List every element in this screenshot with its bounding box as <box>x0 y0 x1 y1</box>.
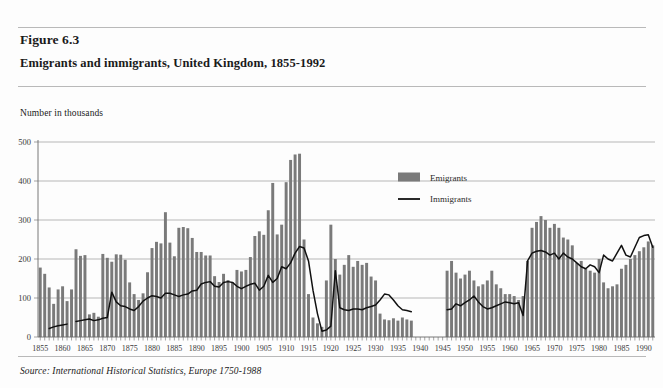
bar-emigrants <box>43 274 46 337</box>
chart-legend: EmigrantsImmigrants <box>398 173 472 205</box>
bar-emigrants <box>151 248 154 337</box>
bar-emigrants <box>611 286 614 337</box>
bar-emigrants <box>92 313 95 337</box>
bar-emigrants <box>553 224 556 337</box>
x-tick-label: 1975 <box>569 344 585 353</box>
bar-emigrants <box>450 261 453 337</box>
bar-emigrants <box>616 284 619 337</box>
bar-emigrants <box>101 254 104 337</box>
bar-emigrants <box>410 321 413 337</box>
bar-emigrants <box>280 225 283 337</box>
bar-emigrants <box>504 294 507 337</box>
x-tick-label: 1855 <box>32 344 48 353</box>
bar-emigrants <box>477 286 480 337</box>
bar-emigrants <box>271 183 274 337</box>
x-tick-label: 1940 <box>412 344 428 353</box>
x-tick-label: 1980 <box>591 344 607 353</box>
bar-emigrants <box>580 261 583 337</box>
bar-emigrants <box>200 252 203 337</box>
bar-emigrants <box>557 228 560 337</box>
x-tick-label: 1985 <box>613 344 629 353</box>
bar-emigrants <box>307 294 310 337</box>
x-tick-label: 1895 <box>211 344 227 353</box>
x-tick-label: 1900 <box>233 344 249 353</box>
bar-emigrants <box>472 280 475 337</box>
bar-emigrants <box>396 321 399 337</box>
x-tick-label: 1955 <box>479 344 495 353</box>
x-axis-ticks-group: 1855186018651870187518801885189018951900… <box>32 337 653 353</box>
header-rule-top <box>18 27 646 28</box>
x-tick-label: 1990 <box>636 344 652 353</box>
bar-emigrants <box>106 258 109 337</box>
bar-emigrants <box>620 269 623 337</box>
bar-emigrants <box>294 154 297 337</box>
bar-emigrants <box>70 289 73 337</box>
bar-emigrants <box>575 263 578 337</box>
bar-emigrants <box>548 228 551 337</box>
bar-emigrants <box>119 255 122 337</box>
bar-emigrants <box>388 320 391 337</box>
bar-emigrants <box>267 210 270 337</box>
legend-swatch-emigrants <box>398 173 420 182</box>
chart-plot-area: 0100200300400500 18551860186518701875188… <box>0 120 663 355</box>
bar-emigrants <box>392 318 395 337</box>
bar-emigrants <box>249 257 252 337</box>
bar-emigrants <box>446 271 449 337</box>
y-tick-label: 100 <box>18 293 31 303</box>
bar-emigrants <box>651 245 654 337</box>
x-tick-label: 1885 <box>166 344 182 353</box>
x-tick-label: 1865 <box>77 344 93 353</box>
x-tick-label: 1860 <box>55 344 71 353</box>
bar-emigrants <box>79 256 82 337</box>
bar-emigrants <box>356 261 359 337</box>
bar-emigrants <box>383 319 386 337</box>
bar-emigrants <box>253 236 256 337</box>
legend-label-emigrants: Emigrants <box>430 173 467 183</box>
bar-emigrants <box>155 242 158 337</box>
x-tick-label: 1930 <box>368 344 384 353</box>
bar-emigrants <box>584 269 587 337</box>
bar-emigrants <box>633 255 636 337</box>
bar-emigrants <box>495 284 498 337</box>
bar-emigrants <box>343 265 346 337</box>
y-axis-ticks-group: 0100200300400500 <box>18 137 38 342</box>
bar-emigrants <box>629 259 632 337</box>
bar-emigrants <box>374 280 377 337</box>
y-tick-label: 200 <box>18 254 31 264</box>
bar-emigrants <box>124 260 127 337</box>
bar-emigrants <box>231 282 234 337</box>
x-tick-label: 1920 <box>323 344 339 353</box>
bar-emigrants <box>513 296 516 337</box>
source-note: Source: International Historical Statist… <box>20 366 261 376</box>
bar-emigrants <box>276 234 279 337</box>
bar-emigrants <box>464 275 467 337</box>
x-tick-label: 1970 <box>546 344 562 353</box>
legend-label-immigrants: Immigrants <box>430 194 472 204</box>
bar-emigrants <box>258 231 261 337</box>
bar-emigrants <box>624 265 627 337</box>
bar-emigrants <box>303 240 306 338</box>
bar-emigrants <box>186 228 189 337</box>
bar-emigrants <box>289 160 292 337</box>
bar-emigrants <box>540 216 543 337</box>
x-tick-label: 1950 <box>457 344 473 353</box>
x-tick-label: 1945 <box>435 344 451 353</box>
bar-emigrants <box>593 273 596 337</box>
y-axis-unit-label: Number in thousands <box>20 108 103 118</box>
figure-number: Figure 6.3 <box>20 32 79 48</box>
bar-emigrants <box>285 182 288 337</box>
bar-emigrants <box>638 251 641 337</box>
y-tick-label: 500 <box>18 137 31 147</box>
header-rule-bottom <box>18 86 646 87</box>
bar-emigrants <box>642 247 645 337</box>
y-tick-label: 300 <box>18 215 31 225</box>
bar-emigrants <box>52 304 55 337</box>
bar-emigrants <box>365 263 368 337</box>
bar-emigrants <box>191 238 194 337</box>
bar-emigrants <box>468 271 471 337</box>
bar-emigrants <box>508 294 511 337</box>
x-tick-label: 1905 <box>256 344 272 353</box>
bar-emigrants <box>182 227 185 337</box>
bar-emigrants <box>168 243 171 337</box>
y-tick-label: 0 <box>27 332 31 342</box>
